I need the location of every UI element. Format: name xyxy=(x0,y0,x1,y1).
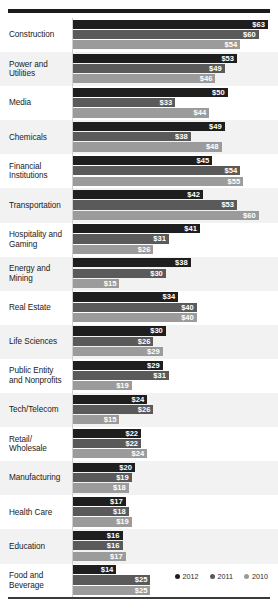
bar-line: $22 xyxy=(72,439,278,448)
chart-row: Tech/Telecom$24$26$15 xyxy=(0,393,278,427)
bar-line: $45 xyxy=(72,156,278,165)
bar-value-label: $45 xyxy=(73,156,212,165)
bar-line: $19 xyxy=(72,517,278,526)
bar-value-label: $29 xyxy=(73,347,163,356)
legend-item-2011[interactable]: 2011 xyxy=(210,572,233,581)
chart-row: Education$16$16$17 xyxy=(0,529,278,563)
bar-group: $16$16$17 xyxy=(72,529,278,563)
bar-group: $50$33$44 xyxy=(72,86,278,120)
bar-value-label: $54 xyxy=(73,40,240,49)
chart-row: Construction$63$60$54 xyxy=(0,18,278,52)
chart-row: Retail/ Wholesale$22$22$24 xyxy=(0,427,278,461)
bar-value-label: $49 xyxy=(73,64,225,73)
bar-value-label: $40 xyxy=(73,313,197,322)
bar-value-label: $26 xyxy=(73,245,153,254)
bar-value-label: $19 xyxy=(73,381,132,390)
bar-line: $29 xyxy=(72,347,278,356)
bar-group: $20$19$18 xyxy=(72,461,278,495)
bar-line: $18 xyxy=(72,483,278,492)
bar-value-label: $25 xyxy=(73,586,150,595)
category-label: Life Sciences xyxy=(0,337,72,347)
bar-line: $44 xyxy=(72,108,278,117)
category-label: Retail/ Wholesale xyxy=(0,435,72,454)
bar-line: $31 xyxy=(72,234,278,243)
bar-value-label: $30 xyxy=(73,269,166,278)
bar-group: $17$18$19 xyxy=(72,495,278,529)
bar-value-label: $53 xyxy=(73,54,237,63)
bar-line: $38 xyxy=(72,132,278,141)
chart-row: Health Care$17$18$19 xyxy=(0,495,278,529)
bar-line: $33 xyxy=(72,98,278,107)
bar-value-label: $55 xyxy=(73,177,243,186)
category-label: Health Care xyxy=(0,508,72,518)
bar-line: $54 xyxy=(72,40,278,49)
bar-value-label: $33 xyxy=(73,98,175,107)
bar-value-label: $26 xyxy=(73,405,153,414)
bar-line: $30 xyxy=(72,326,278,335)
bar-value-label: $31 xyxy=(73,371,169,380)
bar-value-label: $20 xyxy=(73,463,135,472)
bar-line: $16 xyxy=(72,531,278,540)
legend-item-2012[interactable]: 2012 xyxy=(175,572,199,581)
chart-row: Media$50$33$44 xyxy=(0,86,278,120)
bar-line: $18 xyxy=(72,507,278,516)
bar-line: $17 xyxy=(72,552,278,561)
bar-line: $49 xyxy=(72,64,278,73)
category-label: Education xyxy=(0,542,72,552)
bar-line: $40 xyxy=(72,303,278,312)
bar-value-label: $16 xyxy=(73,541,123,550)
bar-line: $26 xyxy=(72,245,278,254)
bar-line: $24 xyxy=(72,395,278,404)
bar-line: $60 xyxy=(72,211,278,220)
bar-group: $42$53$60 xyxy=(72,188,278,222)
bar-value-label: $15 xyxy=(73,415,119,424)
bar-line: $48 xyxy=(72,142,278,151)
bar-value-label: $15 xyxy=(73,279,119,288)
bar-value-label: $30 xyxy=(73,326,166,335)
chart-row: Transportation$42$53$60 xyxy=(0,188,278,222)
bar-line: $26 xyxy=(72,337,278,346)
chart-legend: 201220112010 xyxy=(0,570,278,583)
chart-row: Financial Institutions$45$54$55 xyxy=(0,154,278,188)
bar-value-label: $16 xyxy=(73,531,123,540)
bar-line: $54 xyxy=(72,166,278,175)
bar-chart: Construction$63$60$54Power and Utilities… xyxy=(0,0,278,612)
category-label: Transportation xyxy=(0,201,72,211)
bar-value-label: $17 xyxy=(73,552,126,561)
chart-row: Chemicals$49$38$48 xyxy=(0,120,278,154)
bar-value-label: $29 xyxy=(73,361,163,370)
bar-line: $46 xyxy=(72,74,278,83)
category-label: Public Entity and Nonprofits xyxy=(0,366,72,385)
category-label: Chemicals xyxy=(0,133,72,143)
bar-value-label: $46 xyxy=(73,74,215,83)
bar-value-label: $54 xyxy=(73,166,240,175)
bar-value-label: $40 xyxy=(73,303,197,312)
bar-line: $50 xyxy=(72,88,278,97)
bar-value-label: $48 xyxy=(73,142,222,151)
plot-area: Construction$63$60$54Power and Utilities… xyxy=(0,18,278,564)
bar-line: $26 xyxy=(72,405,278,414)
bar-line: $53 xyxy=(72,54,278,63)
bar-group: $63$60$54 xyxy=(72,18,278,52)
bar-line: $49 xyxy=(72,122,278,131)
chart-row: Manufacturing$20$19$18 xyxy=(0,461,278,495)
bar-value-label: $53 xyxy=(73,200,237,209)
bar-line: $41 xyxy=(72,224,278,233)
chart-row: Public Entity and Nonprofits$29$31$19 xyxy=(0,359,278,393)
legend-label: 2010 xyxy=(252,572,268,581)
category-label: Media xyxy=(0,98,72,108)
bar-group: $38$30$15 xyxy=(72,257,278,291)
header-rule xyxy=(8,9,270,13)
bar-value-label: $34 xyxy=(73,292,178,301)
bar-line: $60 xyxy=(72,30,278,39)
bar-line: $63 xyxy=(72,20,278,29)
legend-dot-icon xyxy=(175,574,180,579)
bar-value-label: $49 xyxy=(73,122,225,131)
bar-group: $41$31$26 xyxy=(72,223,278,257)
bar-group: $34$40$40 xyxy=(72,291,278,325)
legend-item-2010[interactable]: 2010 xyxy=(244,572,268,581)
bar-line: $20 xyxy=(72,463,278,472)
bar-line: $17 xyxy=(72,497,278,506)
category-label: Tech/Telecom xyxy=(0,405,72,415)
bar-line: $19 xyxy=(72,381,278,390)
